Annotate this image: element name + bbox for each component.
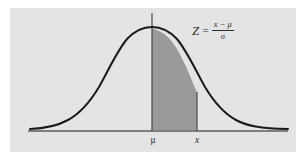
- formula-z-variable: Z: [192, 24, 200, 37]
- z-score-formula: Z = x − μ σ: [192, 20, 234, 40]
- formula-numerator: x − μ: [212, 20, 234, 30]
- axis-label-value: x: [190, 136, 204, 146]
- axis-label-mean: μ: [146, 136, 160, 146]
- shaded-area-under-curve: [152, 29, 197, 132]
- formula-equals-sign: =: [203, 25, 209, 36]
- normal-distribution-figure: Z = x − μ σ μ x: [0, 0, 308, 164]
- formula-denominator: σ: [219, 31, 227, 41]
- formula-fraction: x − μ σ: [212, 20, 234, 40]
